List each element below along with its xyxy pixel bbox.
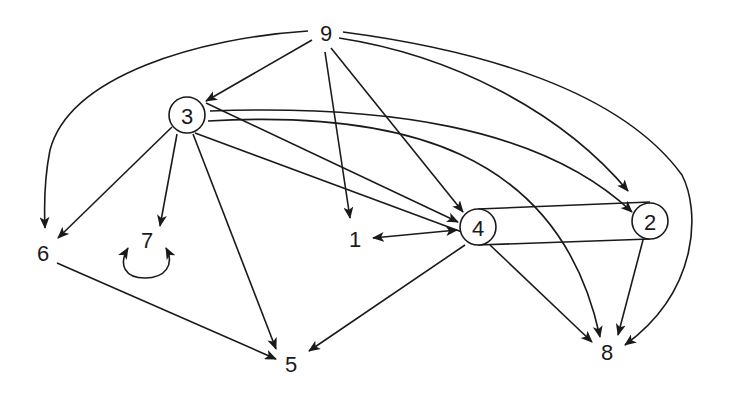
edge-7-self-loop bbox=[123, 248, 169, 278]
edge-3-to-8 bbox=[208, 119, 600, 337]
edge-9-to-3 bbox=[206, 40, 312, 101]
node-5: 5 bbox=[285, 352, 297, 377]
edge-9-to-8 bbox=[343, 32, 692, 345]
node-label-2: 2 bbox=[644, 210, 656, 235]
node-2: 2 bbox=[632, 203, 668, 239]
node-7: 7 bbox=[141, 228, 153, 253]
edge-3-to-3-lower-to-4 bbox=[195, 133, 462, 232]
node-label-6: 6 bbox=[37, 241, 49, 266]
node-label-3: 3 bbox=[181, 104, 193, 129]
node-label-7: 7 bbox=[141, 228, 153, 253]
node-label-8: 8 bbox=[601, 340, 613, 365]
node-9: 9 bbox=[320, 21, 332, 46]
edge-3-to-6 bbox=[58, 127, 172, 238]
edge-6-to-5 bbox=[57, 263, 276, 359]
edge-4-to-1-bidirectional bbox=[373, 230, 457, 238]
node-1: 1 bbox=[349, 227, 361, 252]
node-label-4: 4 bbox=[472, 216, 484, 241]
edge-4-to-5 bbox=[309, 245, 465, 351]
edge-3-to-5 bbox=[193, 134, 276, 349]
node-6: 6 bbox=[37, 241, 49, 266]
edge-4-to-8 bbox=[490, 245, 592, 342]
node-label-5: 5 bbox=[285, 352, 297, 377]
edge-3-to-7 bbox=[160, 134, 177, 226]
node-label-1: 1 bbox=[349, 227, 361, 252]
node-8: 8 bbox=[601, 340, 613, 365]
edge-9-to-2 bbox=[339, 38, 628, 191]
node-label-9: 9 bbox=[320, 21, 332, 46]
edge-9-to-1 bbox=[325, 52, 350, 218]
node-4: 4 bbox=[460, 209, 496, 245]
directed-graph: 9 3 6 7 1 4 2 5 8 bbox=[0, 0, 730, 397]
node-3: 3 bbox=[169, 97, 205, 133]
edge-9-to-4 bbox=[331, 48, 463, 212]
edge-2-to-8 bbox=[618, 240, 643, 335]
